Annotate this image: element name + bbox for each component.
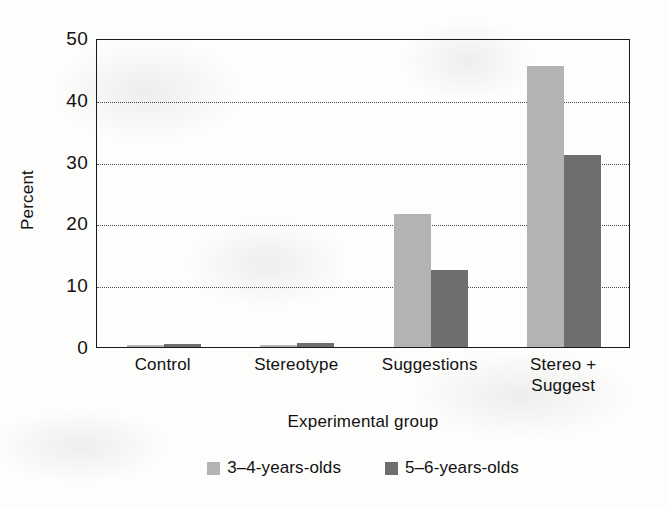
plot-area <box>96 39 630 348</box>
bar <box>127 345 164 347</box>
x-axis-tick-label-line: Suggestions <box>363 354 497 375</box>
bar <box>527 66 564 347</box>
y-axis-tick-label: 40 <box>42 91 88 110</box>
bar-group <box>97 40 231 347</box>
legend-swatch-icon <box>207 462 220 475</box>
x-axis-tick-label-line: Suggest <box>497 375 631 396</box>
legend-swatch-icon <box>385 462 398 475</box>
x-axis-tick-label: Suggestions <box>363 354 497 375</box>
x-axis-tick-label-line: Control <box>96 354 230 375</box>
bar <box>297 343 334 347</box>
chart-legend: 3–4-years-olds5–6-years-olds <box>96 458 630 478</box>
bar <box>164 344 201 347</box>
legend-label: 3–4-years-olds <box>227 458 341 478</box>
y-axis-title: Percent <box>18 140 38 260</box>
x-axis-tick-label: Stereotype <box>230 354 364 375</box>
bar-chart-figure: Percent 01020304050 ControlStereotypeSug… <box>0 0 668 507</box>
legend-label: 5–6-years-olds <box>405 458 519 478</box>
x-axis-tick-labels: ControlStereotypeSuggestionsStereo +Sugg… <box>96 354 630 412</box>
plot-inner <box>97 40 629 347</box>
bar-group <box>498 40 630 347</box>
bar <box>260 345 297 347</box>
y-axis-tick-label: 30 <box>42 153 88 172</box>
bar <box>394 214 431 347</box>
x-axis-tick-label-line: Stereotype <box>230 354 364 375</box>
y-axis-tick-label: 50 <box>42 29 88 48</box>
legend-item[interactable]: 5–6-years-olds <box>385 458 519 478</box>
x-axis-tick-label: Stereo +Suggest <box>497 354 631 396</box>
x-axis-tick-label: Control <box>96 354 230 375</box>
x-axis-tick-label-line: Stereo + <box>497 354 631 375</box>
y-axis-tick-label: 10 <box>42 276 88 295</box>
bar-group <box>231 40 365 347</box>
bar <box>564 155 601 347</box>
bar <box>431 270 468 347</box>
bar-group <box>364 40 498 347</box>
x-axis-title: Experimental group <box>96 412 630 432</box>
y-axis-tick-labels: 01020304050 <box>40 0 88 507</box>
y-axis-tick-label: 20 <box>42 214 88 233</box>
y-axis-tick-label: 0 <box>42 338 88 357</box>
legend-item[interactable]: 3–4-years-olds <box>207 458 341 478</box>
